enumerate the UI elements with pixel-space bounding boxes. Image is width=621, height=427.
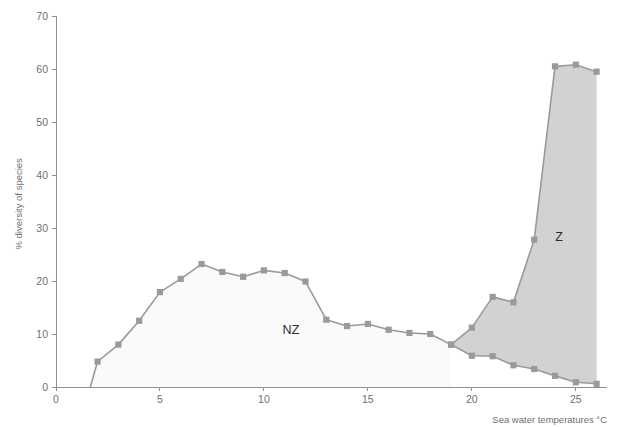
chart-container: 0102030405060700510152025Sea water tempe… (0, 0, 621, 427)
data-point-marker (219, 269, 225, 275)
data-point-marker (427, 331, 433, 337)
data-point-marker (469, 325, 475, 331)
x-tick-label: 10 (258, 393, 270, 405)
data-point-marker (282, 270, 288, 276)
data-point-marker (115, 342, 121, 348)
y-tick-label: 40 (36, 169, 48, 181)
region-label-nz: NZ (283, 323, 300, 337)
data-point-marker (552, 63, 558, 69)
data-point-marker (490, 294, 496, 300)
y-tick-label: 50 (36, 116, 48, 128)
data-point-marker (448, 342, 454, 348)
data-point-marker (573, 62, 579, 68)
data-point-marker (510, 362, 516, 368)
y-tick-label: 30 (36, 222, 48, 234)
data-point-marker (94, 358, 100, 364)
data-point-marker (469, 353, 475, 359)
data-point-marker (344, 323, 350, 329)
data-point-marker (552, 373, 558, 379)
data-point-marker (323, 317, 329, 323)
x-tick-label: 25 (570, 393, 582, 405)
data-point-marker (594, 69, 600, 75)
data-point-marker (531, 237, 537, 243)
data-point-marker (198, 261, 204, 267)
y-axis-title: % diversity of species (13, 158, 24, 250)
data-point-marker (510, 299, 516, 305)
region-label-z: Z (555, 230, 563, 244)
data-point-marker (157, 289, 163, 295)
y-tick-label: 0 (42, 381, 48, 393)
data-point-marker (531, 366, 537, 372)
data-point-marker (573, 379, 579, 385)
data-point-marker (365, 321, 371, 327)
data-point-marker (490, 353, 496, 359)
x-tick-label: 0 (53, 393, 59, 405)
x-tick-label: 20 (466, 393, 478, 405)
y-tick-label: 10 (36, 328, 48, 340)
data-point-marker (386, 327, 392, 333)
x-tick-label: 5 (157, 393, 163, 405)
data-point-marker (406, 330, 412, 336)
data-point-marker (136, 318, 142, 324)
x-tick-label: 15 (362, 393, 374, 405)
data-point-marker (261, 267, 267, 273)
data-point-marker (594, 381, 600, 387)
y-tick-label: 70 (36, 10, 48, 22)
x-axis-title: Sea water temperatures °C (492, 414, 607, 425)
data-point-marker (240, 274, 246, 280)
y-tick-label: 20 (36, 275, 48, 287)
y-tick-label: 60 (36, 63, 48, 75)
data-point-marker (178, 276, 184, 282)
diversity-vs-temperature-chart: 0102030405060700510152025Sea water tempe… (0, 0, 621, 427)
data-point-marker (302, 278, 308, 284)
